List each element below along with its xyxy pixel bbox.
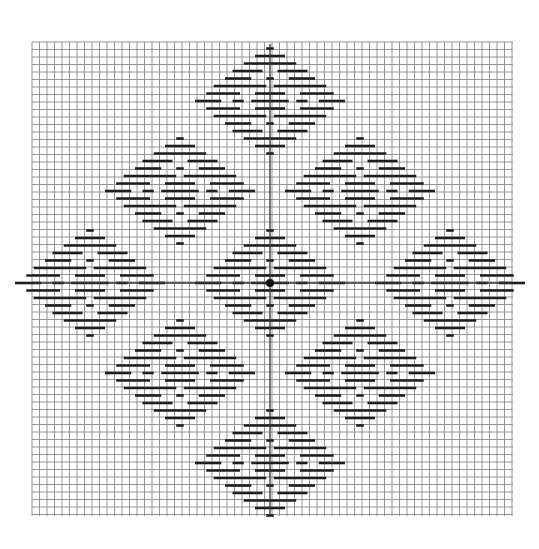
axes	[34, 44, 511, 514]
grid-diagram	[0, 0, 539, 549]
center-dot	[266, 279, 274, 287]
grid-lines	[32, 42, 513, 516]
